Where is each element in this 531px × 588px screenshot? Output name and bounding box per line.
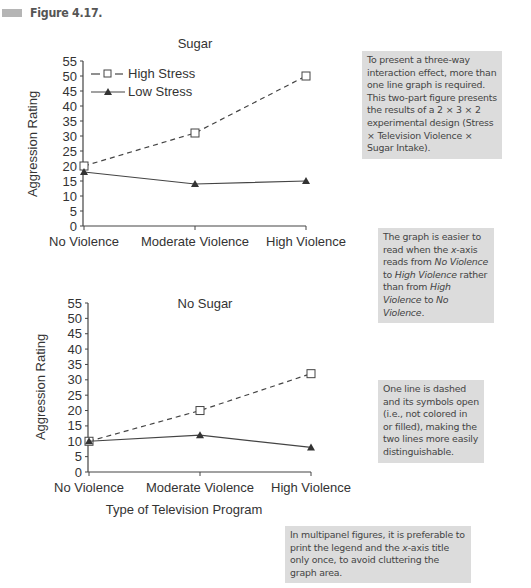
- y-tick-label: 35: [68, 357, 82, 372]
- annotation-text: to: [421, 294, 436, 305]
- y-tick-label: 0: [75, 465, 82, 480]
- data-series: [85, 370, 315, 451]
- y-tick-label: 5: [75, 449, 82, 464]
- y-tick-label: 15: [68, 418, 82, 433]
- x-axis-label: Type of Television Program: [106, 502, 263, 517]
- triangle-marker-icon: [196, 431, 204, 438]
- annotation-axis-order: The graph is easier to read when the x-a…: [378, 228, 494, 323]
- x-tick-label: High Violence: [271, 480, 351, 495]
- annotation-text-italic: High Violence: [395, 269, 457, 280]
- square-marker-icon: [307, 370, 315, 378]
- annotation-text-italic: No Violence: [435, 256, 489, 267]
- y-tick-label: 30: [68, 372, 82, 387]
- y-tick-label: 50: [68, 311, 82, 326]
- annotation-multipanel: In multipanel figures, it is preferable …: [285, 526, 471, 583]
- x-axis: No ViolenceModerate ViolenceHigh Violenc…: [54, 472, 351, 495]
- annotation-text: to: [383, 269, 395, 280]
- y-tick-label: 20: [68, 403, 82, 418]
- chart-no-sugar: No Sugar Aggression Rating 0510152025303…: [0, 0, 370, 530]
- y-axis: 0510152025303540455055: [68, 296, 88, 480]
- square-marker-icon: [196, 407, 204, 415]
- x-tick-label: Moderate Violence: [146, 480, 254, 495]
- annotation-dashed-line: One line is dashed and its symbols open …: [378, 380, 484, 463]
- y-tick-label: 45: [68, 326, 82, 341]
- y-tick-label: 55: [68, 296, 82, 311]
- chart-title: No Sugar: [178, 296, 234, 311]
- y-tick-label: 25: [68, 388, 82, 403]
- y-tick-label: 10: [68, 434, 82, 449]
- annotation-text: To present a three-way interaction effec…: [367, 54, 497, 153]
- y-tick-label: 40: [68, 342, 82, 357]
- annotation-text: .: [421, 307, 424, 318]
- annotation-three-way-interaction: To present a three-way interaction effec…: [362, 51, 502, 159]
- annotation-text: One line is dashed and its symbols open …: [383, 383, 479, 457]
- y-axis-label: Aggression Rating: [33, 334, 48, 440]
- x-tick-label: No Violence: [54, 480, 124, 495]
